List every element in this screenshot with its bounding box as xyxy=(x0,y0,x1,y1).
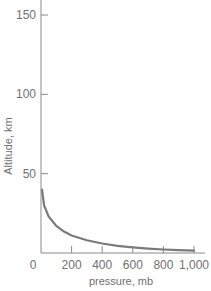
x-axis-title: pressure, mb xyxy=(89,275,153,287)
x-tick-label: 800 xyxy=(153,258,173,272)
x-tick-label: 400 xyxy=(92,258,112,272)
pressure-altitude-curve xyxy=(42,190,194,251)
y-tick-label: 100 xyxy=(16,87,36,101)
x-tick-label: 200 xyxy=(62,258,82,272)
y-tick-label: 50 xyxy=(23,167,37,181)
chart: 50100150 02004006008001,000 Altitude, km… xyxy=(0,0,211,291)
y-axis-title: Altitude, km xyxy=(2,117,14,174)
x-tick-label: 600 xyxy=(123,258,143,272)
x-tick-label: 0 xyxy=(30,258,37,272)
x-tick-label: 1,000 xyxy=(179,258,209,272)
y-tick-label: 150 xyxy=(16,8,36,22)
